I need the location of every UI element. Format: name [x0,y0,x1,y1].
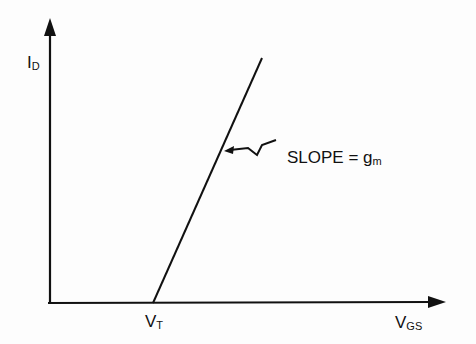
threshold-label-main: V [145,312,156,331]
y-axis-label: ID [27,54,40,72]
y-axis-label-sub: D [32,60,40,72]
slope-annotation-sub: m [373,155,382,167]
x-axis [48,302,430,303]
x-axis-label-main: V [395,313,406,332]
threshold-label-sub: T [156,319,163,331]
threshold-label: VT [145,313,163,331]
transfer-characteristic-diagram: ID SLOPE = gm VT VGS [0,0,476,344]
slope-annotation-text: SLOPE = g [287,148,373,167]
transfer-line [153,58,262,303]
annotation-arrowhead-icon [224,146,234,154]
x-axis-label: VGS [395,314,422,332]
slope-annotation: SLOPE = gm [287,149,382,167]
x-axis-arrow-icon [428,296,446,308]
y-axis-arrow-icon [44,18,56,36]
x-axis-label-sub: GS [406,320,422,332]
annotation-leader-squiggle [230,140,276,155]
diagram-graphics [0,0,476,344]
